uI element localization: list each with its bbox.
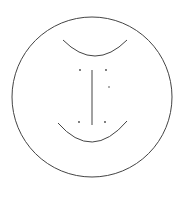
dot bbox=[78, 121, 80, 123]
diagram-canvas bbox=[0, 0, 179, 197]
dot bbox=[105, 69, 107, 71]
dot bbox=[79, 69, 81, 71]
dot bbox=[104, 121, 106, 123]
dots bbox=[78, 69, 110, 123]
dot bbox=[108, 86, 110, 88]
top-arc bbox=[63, 40, 127, 56]
